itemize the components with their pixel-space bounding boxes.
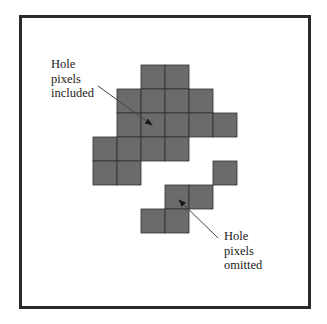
pixel-cells <box>93 65 237 233</box>
pixel-cell <box>117 161 141 185</box>
label-line: pixels <box>51 72 94 87</box>
pixel-cell <box>141 113 165 137</box>
pixel-cell <box>189 113 213 137</box>
pixel-cell <box>117 113 141 137</box>
pixel-cell <box>165 89 189 113</box>
pixel-grid-diagram <box>0 0 327 324</box>
label-line: included <box>51 86 94 101</box>
pixel-cell <box>117 89 141 113</box>
pixel-cell <box>93 137 117 161</box>
pixel-cell <box>165 113 189 137</box>
pixel-cell <box>93 161 117 185</box>
label-hole-pixels-included: Hole pixels included <box>51 57 94 101</box>
pixel-cell <box>165 137 189 161</box>
label-line: pixels <box>224 244 262 259</box>
pixel-cell <box>213 161 237 185</box>
pixel-cell <box>141 209 165 233</box>
label-line: omitted <box>224 258 262 273</box>
label-hole-pixels-omitted: Hole pixels omitted <box>224 229 262 273</box>
label-line: Hole <box>224 229 262 244</box>
pixel-cell <box>189 185 213 209</box>
pixel-cell <box>117 137 141 161</box>
pixel-cell <box>165 209 189 233</box>
pixel-cell <box>165 185 189 209</box>
pixel-cell <box>189 89 213 113</box>
pixel-cell <box>165 65 189 89</box>
pixel-cell <box>213 113 237 137</box>
pixel-cell <box>141 137 165 161</box>
pixel-cell <box>141 89 165 113</box>
label-line: Hole <box>51 57 94 72</box>
pixel-cell <box>141 65 165 89</box>
